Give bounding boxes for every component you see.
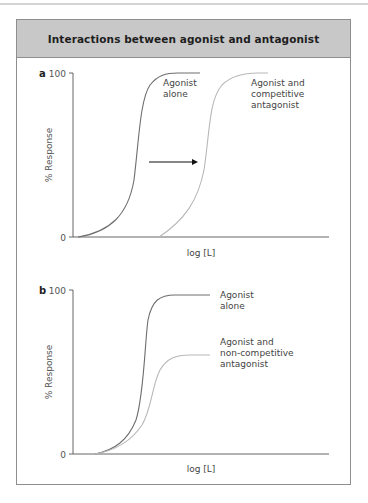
panel-b-noncompetitive-curve xyxy=(95,355,210,454)
panel-a-y-tick-100: 100 xyxy=(49,69,66,79)
panel-a: a 100 0 % Response log [L] Agonist alone… xyxy=(39,68,329,258)
panel-a-competitive-label: Agonist and competitive antagonist xyxy=(251,78,307,110)
panel-a-y-axis xyxy=(69,73,73,237)
panel-a-x-axis-label: log [L] xyxy=(187,248,216,258)
shift-arrow-head-icon xyxy=(192,159,198,165)
panel-b-y-axis-label: % Response xyxy=(44,344,54,399)
panel-a-label: a xyxy=(39,68,46,79)
panel-b-x-axis-label: log [L] xyxy=(187,464,216,474)
panel-b-y-axis xyxy=(69,290,73,454)
panel-b-y-tick-100: 100 xyxy=(49,286,66,296)
figure-charts: a 100 0 % Response log [L] Agonist alone… xyxy=(0,0,368,503)
panel-a-y-axis-label: % Response xyxy=(44,127,54,182)
panel-b: b 100 0 % Response log [L] Agonist alone… xyxy=(39,285,329,474)
panel-b-agonist-alone-curve xyxy=(95,295,210,454)
panel-b-noncompetitive-label: Agonist and non-competitive antagonist xyxy=(220,337,296,369)
panel-b-y-tick-0: 0 xyxy=(60,450,66,460)
panel-a-y-tick-0: 0 xyxy=(60,233,66,243)
panel-b-label: b xyxy=(39,285,46,296)
panel-b-agonist-alone-label: Agonist alone xyxy=(220,290,257,311)
panel-a-agonist-alone-label: Agonist alone xyxy=(163,78,200,99)
